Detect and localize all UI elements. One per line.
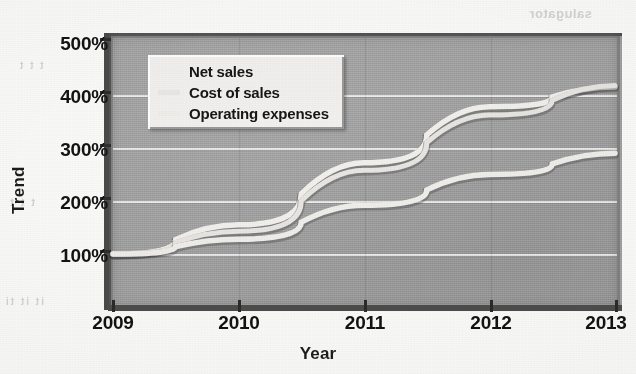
chart-legend: Net sales Cost of sales Operating expens… — [148, 55, 344, 129]
legend-swatch-icon-cost-of-sales — [158, 90, 180, 95]
legend-label-operating-expenses: Operating expenses — [189, 105, 329, 122]
legend-swatch-icon-operating-expenses — [158, 111, 180, 116]
legend-swatch-icon-net-sales — [158, 69, 180, 74]
legend-label-cost-of-sales: Cost of sales — [189, 84, 280, 101]
legend-item-operating-expenses: Operating expenses — [158, 103, 336, 124]
legend-item-net-sales: Net sales — [158, 61, 336, 82]
legend-item-cost-of-sales: Cost of sales — [158, 82, 336, 103]
legend-label-net-sales: Net sales — [189, 63, 253, 80]
